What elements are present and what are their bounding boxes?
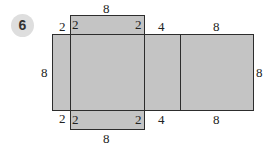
face-center-square [70, 34, 145, 111]
label-top-flap-right-height: 2 [135, 18, 142, 31]
label-left-flap-top-width: 2 [59, 20, 66, 33]
face-right-square [180, 34, 254, 111]
label-bottom-flap-width: 8 [103, 132, 110, 145]
problem-number-badge: 6 [11, 14, 34, 37]
label-middle-strip-bottom-width: 4 [158, 113, 165, 126]
label-top-flap-width: 8 [103, 2, 110, 15]
label-left-flap-height: 8 [41, 66, 48, 79]
label-bottom-flap-right-height: 2 [135, 113, 142, 126]
label-bottom-flap-left-height: 2 [72, 113, 79, 126]
face-left-flap [52, 34, 71, 111]
label-top-flap-left-height: 2 [72, 18, 79, 31]
label-right-square-bottom-width: 8 [213, 113, 220, 126]
label-left-flap-bottom-width: 2 [59, 112, 66, 125]
face-middle-strip [144, 34, 181, 111]
face-bottom-flap [70, 110, 145, 130]
label-middle-strip-top-width: 4 [158, 20, 165, 33]
label-right-square-top-width: 8 [213, 20, 220, 33]
face-top-flap [70, 15, 145, 35]
label-right-square-height: 8 [256, 66, 263, 79]
